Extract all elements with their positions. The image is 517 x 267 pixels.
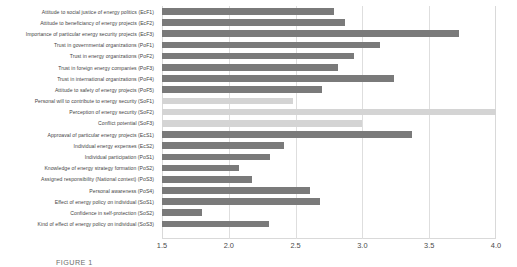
category-label-row: Attitude to beneficiancy of energy proje… [0, 17, 158, 28]
x-tick-label: 3.5 [424, 241, 434, 250]
category-label-row: Knowledge of energy strategy formation (… [0, 163, 158, 174]
category-label: Attitude to safety of energy projects (P… [55, 87, 154, 93]
category-label: Personal will to contribute to energy se… [35, 98, 154, 104]
category-label-row: Perception of energy security (SoF2) [0, 107, 158, 118]
bar [162, 165, 239, 172]
bar [162, 198, 320, 205]
bar [162, 75, 394, 82]
bar [162, 53, 354, 60]
bar-row [162, 185, 496, 196]
category-label: Trust in governmental organizations (PoF… [54, 42, 154, 48]
figure-caption: FIGURE 1 [56, 258, 93, 267]
bar [162, 154, 270, 161]
category-label: Conflict potential (SoF3) [98, 120, 154, 126]
bar-row [162, 17, 496, 28]
category-label-row: Trust in foreign energy companies (PoF3) [0, 62, 158, 73]
x-tick-label: 2.5 [290, 241, 300, 250]
category-label-row: Approaval of particular energy projects … [0, 129, 158, 140]
bar [162, 86, 322, 93]
category-label: Confidence in self-protection (SoS2) [70, 210, 154, 216]
bar-row [162, 174, 496, 185]
bar [162, 120, 362, 127]
category-label: Kind of effect of energy policy on indiv… [38, 221, 154, 227]
bar-row [162, 51, 496, 62]
category-label: Knowledge of energy strategy formation (… [44, 165, 154, 171]
bar-row [162, 151, 496, 162]
bar-row [162, 40, 496, 51]
bar-row [162, 73, 496, 84]
category-label: Perception of energy security (SoF2) [69, 109, 154, 115]
bar [162, 131, 412, 138]
category-label: Trust in foreign energy companies (PoF3) [58, 65, 154, 71]
category-label-row: Attitude to safety of energy projects (P… [0, 84, 158, 95]
category-label: Trust in energy organizations (PoF2) [70, 53, 154, 59]
bar-row [162, 140, 496, 151]
x-tick-label: 2.0 [224, 241, 234, 250]
category-label: Attitude to social justice of energy pol… [42, 9, 154, 15]
category-labels-column: Attitude to social justice of energy pol… [0, 6, 158, 239]
bar-row [162, 207, 496, 218]
category-label: Attitude to beneficiancy of energy proje… [40, 20, 154, 26]
bar-row [162, 196, 496, 207]
category-label-row: Confidence in self-protection (SoS2) [0, 207, 158, 218]
bar-row [162, 163, 496, 174]
category-label: Effect of energy policy on individual (S… [55, 199, 154, 205]
bar [162, 176, 252, 183]
category-label-row: Importance of particular energy security… [0, 28, 158, 39]
bar [162, 42, 380, 49]
bar-row [162, 28, 496, 39]
bar [162, 109, 496, 116]
bar-row [162, 62, 496, 73]
horizontal-bar-chart: Attitude to social justice of energy pol… [0, 0, 517, 267]
bar [162, 98, 293, 105]
bar [162, 64, 338, 71]
category-label: Approaval of particular energy projects … [47, 132, 154, 138]
category-label-row: Kind of effect of energy policy on indiv… [0, 219, 158, 230]
category-label-row: Individual energy expenses (EcS2) [0, 140, 158, 151]
plot-area [162, 6, 496, 239]
category-label: Individual energy expenses (EcS2) [74, 143, 154, 149]
bar [162, 142, 284, 149]
category-label-row: Personal will to contribute to energy se… [0, 96, 158, 107]
bar [162, 221, 269, 228]
category-label-row: Effect of energy policy on individual (S… [0, 196, 158, 207]
bar-row [162, 6, 496, 17]
x-axis-tick-labels: 1.52.02.53.03.54.0 [162, 241, 496, 255]
bar-row [162, 96, 496, 107]
category-label-row: Personal awareness (PoS4) [0, 185, 158, 196]
category-label: Assigned responsibility (National contex… [41, 176, 154, 182]
x-tick-label: 1.5 [157, 241, 167, 250]
category-label-row: Trust in energy organizations (PoF2) [0, 51, 158, 62]
bar [162, 30, 459, 37]
bar [162, 19, 345, 26]
category-label-row: Attitude to social justice of energy pol… [0, 6, 158, 17]
x-tick-label: 3.0 [357, 241, 367, 250]
bar [162, 209, 202, 216]
x-tick-label: 4.0 [491, 241, 501, 250]
category-label-row: Assigned responsibility (National contex… [0, 174, 158, 185]
bar [162, 8, 334, 15]
category-label-row: Trust in international organizations (Po… [0, 73, 158, 84]
bar-row [162, 129, 496, 140]
category-label: Individual participation (PoS1) [85, 154, 154, 160]
bar-row [162, 219, 496, 230]
bar-row [162, 118, 496, 129]
category-label-row: Conflict potential (SoF3) [0, 118, 158, 129]
category-label: Personal awareness (PoS4) [89, 188, 154, 194]
category-label: Trust in international organizations (Po… [57, 76, 154, 82]
bar-row [162, 84, 496, 95]
category-label-row: Trust in governmental organizations (PoF… [0, 40, 158, 51]
category-label: Importance of particular energy security… [26, 31, 154, 37]
bar-row [162, 107, 496, 118]
category-label-row: Individual participation (PoS1) [0, 151, 158, 162]
bar [162, 187, 310, 194]
